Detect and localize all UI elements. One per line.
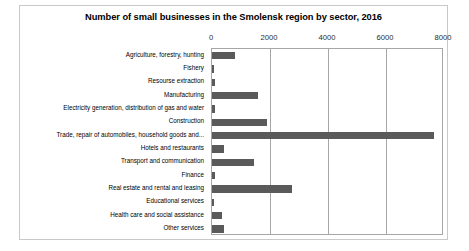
category-row: Finance bbox=[20, 168, 208, 181]
x-tick-label: 6000 bbox=[377, 33, 394, 42]
bar bbox=[212, 119, 267, 126]
x-axis-tick-labels: 02000400060008000 bbox=[20, 33, 449, 45]
category-label: Manufacturing bbox=[164, 92, 204, 98]
bar-row bbox=[212, 142, 442, 155]
bar-row bbox=[212, 182, 442, 195]
category-axis-labels: Agriculture, forestry, huntingFisheryRes… bbox=[20, 48, 208, 235]
category-row: Manufacturing bbox=[20, 88, 208, 101]
category-label: Electricity generation, distribution of … bbox=[63, 105, 204, 111]
bar bbox=[212, 185, 292, 192]
bar bbox=[212, 199, 214, 206]
bar-row bbox=[212, 89, 442, 102]
category-row: Health care and social assistance bbox=[20, 208, 208, 221]
bar-row bbox=[212, 196, 442, 209]
x-tick-label: 2000 bbox=[261, 33, 278, 42]
bar bbox=[212, 79, 215, 86]
plot-area bbox=[211, 48, 443, 235]
bar-row bbox=[212, 76, 442, 89]
category-label: Hotels and restaurants bbox=[141, 145, 204, 151]
category-row: Construction bbox=[20, 115, 208, 128]
bar-row bbox=[212, 116, 442, 129]
x-tick-label: 4000 bbox=[319, 33, 336, 42]
bar bbox=[212, 132, 434, 139]
category-label: Transport and communication bbox=[121, 158, 204, 164]
category-row: Agriculture, forestry, hunting bbox=[20, 48, 208, 61]
category-row: Other services bbox=[20, 221, 208, 234]
bar bbox=[212, 52, 235, 59]
category-label: Agriculture, forestry, hunting bbox=[126, 52, 204, 58]
bar bbox=[212, 145, 224, 152]
category-row: Trade, repair of automobiles, household … bbox=[20, 128, 208, 141]
category-row: Transport and communication bbox=[20, 155, 208, 168]
bar bbox=[212, 159, 254, 166]
bar-row bbox=[212, 222, 442, 235]
bar-row bbox=[212, 156, 442, 169]
category-row: Electricity generation, distribution of … bbox=[20, 101, 208, 114]
category-label: Finance bbox=[182, 172, 204, 178]
bar-row bbox=[212, 49, 442, 62]
bar bbox=[212, 65, 214, 72]
bar bbox=[212, 172, 215, 179]
chart-title: Number of small businesses in the Smolen… bbox=[20, 12, 447, 22]
x-tick-label: 0 bbox=[209, 33, 213, 42]
category-row: Resourse extraction bbox=[20, 75, 208, 88]
category-label: Resourse extraction bbox=[148, 78, 204, 84]
bar-series bbox=[212, 49, 442, 234]
bar-row bbox=[212, 102, 442, 115]
category-label: Educational services bbox=[146, 198, 204, 204]
category-row: Educational services bbox=[20, 195, 208, 208]
category-label: Other services bbox=[163, 225, 204, 231]
bar-row bbox=[212, 129, 442, 142]
category-label: Health care and social assistance bbox=[110, 212, 204, 218]
category-label: Trade, repair of automobiles, household … bbox=[57, 132, 205, 138]
category-row: Hotels and restaurants bbox=[20, 141, 208, 154]
chart-frame: Number of small businesses in the Smolen… bbox=[19, 5, 448, 240]
bar bbox=[212, 212, 222, 219]
bar bbox=[212, 105, 215, 112]
category-row: Real estate and rental and leasing bbox=[20, 181, 208, 194]
bar-row bbox=[212, 169, 442, 182]
bar bbox=[212, 92, 258, 99]
x-tick-label: 8000 bbox=[435, 33, 452, 42]
bar-row bbox=[212, 209, 442, 222]
category-label: Construction bbox=[169, 118, 204, 124]
bar bbox=[212, 225, 224, 232]
category-row: Fishery bbox=[20, 61, 208, 74]
bar-row bbox=[212, 62, 442, 75]
category-label: Fishery bbox=[183, 65, 204, 71]
category-label: Real estate and rental and leasing bbox=[108, 185, 204, 191]
